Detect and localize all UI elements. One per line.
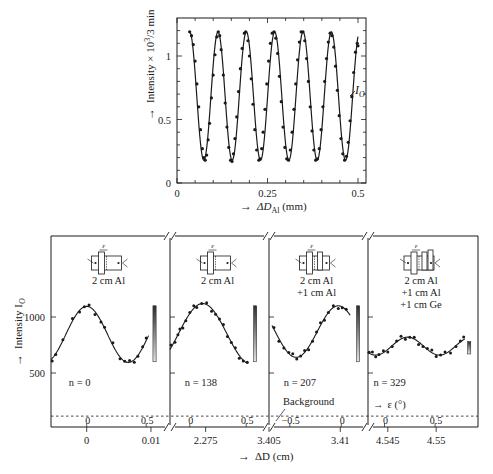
data-point [199,128,202,131]
data-point [204,159,207,162]
delta-d-tick-label: 4.545 [376,435,400,446]
data-point [371,350,374,353]
setup-label: 2 cm Al [404,275,437,286]
data-point [356,44,359,47]
data-point [347,141,350,144]
svg-text:ε: ε [102,242,105,250]
data-point [269,42,272,45]
data-point [213,53,216,56]
data-point [188,30,191,33]
data-point [227,146,230,149]
svg-text:ε: ε [310,242,313,250]
data-point [237,90,240,93]
data-point [422,345,425,348]
data-point [233,137,236,140]
data-point [310,129,313,132]
data-point [178,328,181,331]
data-point [173,341,176,344]
fit-curve [272,306,350,358]
order-label: n = 0 [69,377,91,388]
data-point [99,320,102,323]
bottom-panels: ε2 cm Aln = 000.500.01ε2 cm Aln = 13800.… [51,242,471,446]
epsilon-tick-label: −0.5 [282,415,300,426]
curve-label-io: IO [354,83,365,99]
fit-curve [51,306,149,362]
figure: 00.250.500.51 IO →Intensity × 103/3 min … [0,0,493,474]
setup-label: +1 cm Al [297,287,336,298]
data-point [295,358,298,361]
svg-text:→Intensity × 103/3 min: →Intensity × 103/3 min [143,9,157,120]
data-point [61,338,64,341]
data-point [287,159,290,162]
panel-4: ε2 cm Al+1 cm Al+1 cm Gen = 32900.54.545… [368,242,471,446]
top-x-axis-label: →ΔDAl (mm) [240,199,307,215]
data-point [111,341,114,344]
order-label: n = 329 [374,377,406,388]
data-point [321,105,324,108]
data-point [430,348,433,351]
setup-label: 2 cm Al [201,275,234,286]
data-point [119,357,122,360]
data-point [301,30,304,33]
data-point [195,306,198,309]
data-point [224,101,227,104]
data-point [341,306,344,309]
data-point [248,54,251,57]
data-point [169,344,172,347]
order-label: n = 138 [185,377,217,388]
arrow-icon: → [240,199,252,213]
setup-label: 2 cm Al [300,275,333,286]
data-point [235,115,238,118]
data-point [395,340,398,343]
data-point [207,138,210,141]
arrow-icon: → [11,354,25,366]
intensity-range-bar [254,306,257,362]
data-point [123,360,126,363]
data-point [260,147,263,150]
data-point [439,354,442,357]
data-point [327,311,330,314]
x-tick-label: 0.5 [351,188,364,199]
data-point [208,122,211,125]
epsilon-axis-label: →ε (°) [373,399,406,411]
data-point [413,336,416,339]
data-point [94,313,97,316]
data-point [323,80,326,83]
data-point [192,43,195,46]
data-point [276,52,279,55]
arrow-icon: → [238,449,250,463]
top-fit-curve [190,32,358,160]
data-point [291,352,294,355]
setup-label: +1 cm Ge [400,299,442,310]
data-point [298,40,301,43]
data-point [281,126,284,129]
background-label: Background [283,396,335,407]
data-point [382,349,385,352]
data-point [201,147,204,150]
data-point [444,351,447,354]
data-point [246,361,249,364]
svg-text:ε: ε [415,242,418,250]
data-point [345,155,348,158]
data-point [78,311,81,314]
sample-setup-icon: ε [88,242,128,274]
epsilon-tick-label: 0 [85,415,90,426]
data-point [339,137,342,140]
data-point [210,310,213,313]
data-point [176,333,179,336]
data-point [145,336,148,339]
data-point [294,82,297,85]
data-point [334,65,337,68]
setup-label: 2 cm Al [92,275,125,286]
top-chart: 00.250.500.51 IO →Intensity × 103/3 min … [143,9,366,215]
data-point [337,307,340,310]
data-point [218,317,221,320]
data-point [205,301,208,304]
data-point [325,57,328,60]
data-point [128,359,131,362]
data-point [278,75,281,78]
data-point [323,319,326,322]
data-point [246,39,249,42]
data-point [332,304,335,307]
data-point [318,147,321,150]
